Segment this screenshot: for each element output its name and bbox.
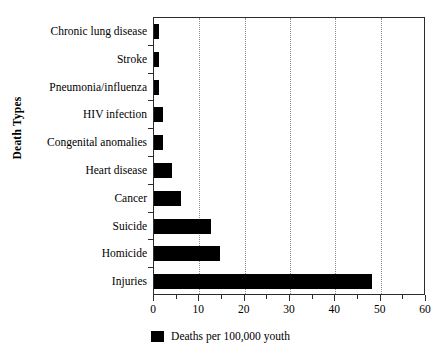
bar-row	[154, 157, 424, 185]
y-axis-tick-label: Chronic lung disease	[0, 25, 147, 37]
bar-row	[154, 129, 424, 157]
x-axis-minor-tick	[312, 295, 313, 299]
bar-row	[154, 74, 424, 102]
y-axis-tick-label: Suicide	[0, 220, 147, 232]
x-axis-tick	[380, 295, 381, 301]
x-axis-tick-label: 0	[133, 303, 173, 315]
x-axis-tick	[153, 295, 154, 301]
x-axis-tick	[334, 295, 335, 301]
y-axis-tick-label: Injuries	[0, 275, 147, 287]
x-axis-minor-tick	[402, 295, 403, 299]
x-axis-tick-label: 20	[224, 303, 264, 315]
bar	[154, 80, 159, 95]
bar-row	[154, 46, 424, 74]
x-axis-tick-label: 40	[314, 303, 354, 315]
y-axis-tick-label: Pneumonia/influenza	[0, 81, 147, 93]
bar-row	[154, 213, 424, 241]
x-axis-tick-label: 10	[178, 303, 218, 315]
x-axis-tick	[244, 295, 245, 301]
x-axis-tick	[425, 295, 426, 301]
legend-swatch-deaths	[151, 331, 164, 342]
bar	[154, 274, 372, 289]
y-axis-tick-label: Heart disease	[0, 164, 147, 176]
legend-label-deaths: Deaths per 100,000 youth	[171, 330, 290, 342]
x-axis-minor-tick	[176, 295, 177, 299]
x-axis-tick	[289, 295, 290, 301]
x-axis-tick	[198, 295, 199, 301]
y-axis-tick-label: HIV infection	[0, 108, 147, 120]
y-axis-tick-label: Cancer	[0, 192, 147, 204]
plot-area	[153, 17, 425, 295]
x-axis-tick-label: 50	[360, 303, 400, 315]
bar	[154, 24, 159, 39]
x-axis-minor-tick	[221, 295, 222, 299]
bar-row	[154, 240, 424, 268]
bar-row	[154, 185, 424, 213]
bar-row	[154, 101, 424, 129]
bar	[154, 52, 159, 67]
y-axis-tick-label: Congenital anomalies	[0, 136, 147, 148]
bar	[154, 107, 163, 122]
bar	[154, 246, 220, 261]
x-axis-minor-tick	[357, 295, 358, 299]
bar-row	[154, 268, 424, 296]
bar	[154, 219, 211, 234]
bar	[154, 191, 181, 206]
x-axis-tick-label: 30	[269, 303, 309, 315]
bar-row	[154, 18, 424, 46]
y-axis-tick-label: Homicide	[0, 247, 147, 259]
bar	[154, 135, 163, 150]
legend: Deaths per 100,000 youth	[0, 330, 441, 342]
y-axis-tick-label: Stroke	[0, 53, 147, 65]
x-axis-tick-label: 60	[405, 303, 441, 315]
x-axis-minor-tick	[266, 295, 267, 299]
bar	[154, 163, 172, 178]
bar-chart: Death Types Chronic lung diseaseStrokePn…	[0, 0, 441, 353]
